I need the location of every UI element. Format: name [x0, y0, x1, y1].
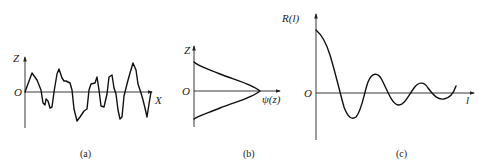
y-axis-label-c: R(l) — [281, 12, 299, 25]
origin-label-a: O — [14, 86, 22, 98]
x-axis-label-a: X — [154, 94, 163, 106]
origin-label-c: O — [304, 87, 312, 99]
caption-a: (a) — [80, 148, 91, 160]
origin-label-b: O — [182, 85, 190, 97]
gaussian-curve — [194, 62, 260, 119]
caption-b: (b) — [243, 148, 255, 160]
caption-c: (c) — [396, 148, 407, 160]
x-axis-label-b: ψ(z) — [262, 93, 281, 106]
autocorrelation-curve — [316, 30, 456, 118]
y-axis-label-b: Z — [184, 44, 191, 56]
y-axis-label-a: Z — [13, 52, 20, 64]
x-axis-label-c: l — [466, 94, 469, 106]
panel-c: R(l) O l (c) — [281, 12, 474, 160]
panel-a: Z O X (a) — [13, 52, 163, 160]
figure-canvas: Z O X (a) Z O ψ(z) (b) R(l) O l (c) — [0, 0, 487, 164]
panel-b: Z O ψ(z) (b) — [182, 44, 281, 160]
